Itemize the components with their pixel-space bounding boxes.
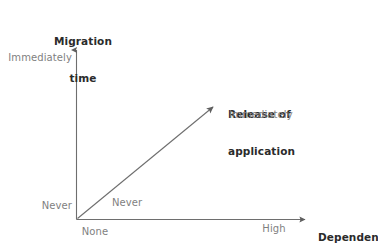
x-axis-min-label: None bbox=[72, 226, 118, 238]
y-axis-min-label: Never bbox=[0, 200, 72, 212]
x-axis-title-line1: Dependence bbox=[318, 231, 378, 243]
x-axis-title: Dependence on framework bbox=[318, 206, 378, 248]
y-axis-title-line1: Migration bbox=[43, 35, 123, 47]
trend-endpoint-title-line2: application bbox=[228, 145, 338, 157]
y-axis-title-line2: time bbox=[43, 72, 123, 84]
x-axis-max-label: High bbox=[256, 223, 292, 235]
diagram-canvas: Migration time Immediately Never None Hi… bbox=[0, 0, 378, 248]
trend-endpoint-title: Release of application bbox=[228, 83, 338, 182]
trend-inline-label: Never bbox=[112, 197, 172, 209]
y-axis-max-label: Immediately bbox=[0, 52, 72, 64]
trend-endpoint-sub-label: Immediately bbox=[229, 109, 339, 121]
